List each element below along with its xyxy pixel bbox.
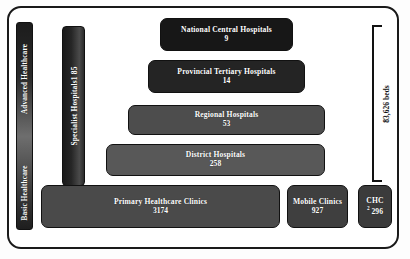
specialist-hospitals-value: 85 [69, 66, 78, 74]
node-specialist-hospitals[interactable]: 85 Specialist Hospitals1 [62, 26, 85, 186]
node-value: 927 [312, 207, 323, 216]
beds-label: 83,626 beds [382, 85, 391, 123]
chc-superscript: 2 [367, 205, 370, 211]
node-value: 2 296 [367, 206, 383, 216]
node-provincial-tertiary-hospitals[interactable]: Provincial Tertiary Hospitals 14 [148, 60, 305, 93]
node-label: National Central Hospitals [181, 26, 272, 35]
node-community-health-centres[interactable]: CHC 2 296 [358, 185, 392, 228]
node-national-central-hospitals[interactable]: National Central Hospitals 9 [160, 18, 293, 51]
node-mobile-clinics[interactable]: Mobile Clinics 927 [287, 185, 348, 228]
spectrum-label-advanced: Advanced Healthcare [21, 44, 29, 114]
healthcare-level-spectrum: Advanced Healthcare Basic Healthcare [16, 22, 33, 230]
specialist-hospitals-label: Specialist Hospitals1 [69, 76, 78, 145]
node-value: 258 [210, 160, 221, 169]
node-value: 3174 [153, 207, 168, 216]
beds-bracket [372, 25, 382, 182]
node-label: Primary Healthcare Clinics [114, 198, 207, 207]
node-value: 53 [223, 120, 231, 129]
node-district-hospitals[interactable]: District Hospitals 258 [106, 144, 325, 176]
node-value: 14 [223, 77, 231, 86]
specialist-hospitals-text: 85 Specialist Hospitals1 [69, 66, 78, 145]
spectrum-label-basic: Basic Healthcare [21, 165, 29, 220]
node-label: Mobile Clinics [293, 198, 342, 207]
node-regional-hospitals[interactable]: Regional Hospitals 53 [128, 105, 325, 135]
node-primary-healthcare-clinics[interactable]: Primary Healthcare Clinics 3174 [41, 185, 280, 228]
node-label: Provincial Tertiary Hospitals [177, 68, 275, 77]
healthcare-pyramid-diagram: Advanced Healthcare Basic Healthcare 85 … [0, 0, 410, 259]
specialist-hospitals-superscript: 1 [69, 76, 78, 80]
node-value: 9 [225, 35, 229, 44]
